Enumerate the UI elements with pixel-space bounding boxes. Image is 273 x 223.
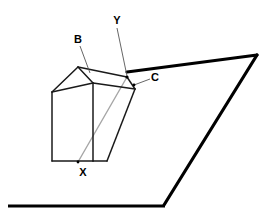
point-marker-x <box>77 161 80 164</box>
point-marker-y <box>125 75 128 78</box>
diagram-canvas: B Y C X <box>0 0 273 223</box>
label-x: X <box>79 166 87 178</box>
label-b: B <box>74 33 82 45</box>
canvas-background <box>0 0 273 223</box>
point-marker-c <box>133 84 136 87</box>
label-y: Y <box>113 14 121 26</box>
label-c: C <box>151 71 159 83</box>
optics-diagram: B Y C X <box>0 0 273 223</box>
